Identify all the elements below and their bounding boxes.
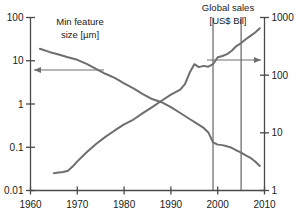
chart-figure: 1001010.10.01100010010119601970198019902… (0, 0, 299, 218)
chart-canvas: 1001010.10.01100010010119601970198019902… (0, 0, 299, 218)
x-tick-label: 1990 (160, 199, 183, 210)
data-series-group (40, 28, 260, 173)
x-tick-label: 2010 (253, 199, 276, 210)
yright-tick-label: 10 (272, 127, 284, 138)
yleft-tick-label: 0.01 (4, 185, 24, 196)
right-axis-title-line2: [US$ Bil] (210, 15, 247, 26)
yright-tick-label: 100 (272, 70, 289, 81)
yright-tick-label: 1000 (272, 12, 295, 23)
series-min-feature-size (40, 49, 260, 166)
pointer-arrows-group (34, 57, 261, 73)
yleft-tick-label: 10 (12, 55, 24, 66)
left-axis-title-line2: size [µm] (61, 29, 99, 40)
x-tick-label: 1960 (19, 199, 42, 210)
yleft-tick-label: 100 (7, 12, 24, 23)
yleft-tick-label: 1 (18, 99, 24, 110)
left-pointer-arrow-head (34, 67, 41, 73)
left-axis-title: Min feature size [µm] (56, 16, 104, 40)
x-tick-label: 1970 (66, 199, 89, 210)
right-axis-title-line1: Global sales (202, 2, 255, 13)
axes-group (26, 18, 269, 195)
vertical-marker-lines (213, 18, 241, 191)
tick-labels-group: 1001010.10.01100010010119601970198019902… (4, 12, 294, 209)
right-pointer-arrow-head (254, 57, 261, 63)
yleft-tick-label: 0.1 (10, 142, 24, 153)
right-axis-title: Global sales [US$ Bil] (202, 2, 255, 26)
x-tick-label: 1980 (113, 199, 136, 210)
x-tick-label: 2000 (207, 199, 230, 210)
yright-tick-label: 1 (272, 185, 278, 196)
left-axis-title-line1: Min feature (56, 16, 104, 27)
